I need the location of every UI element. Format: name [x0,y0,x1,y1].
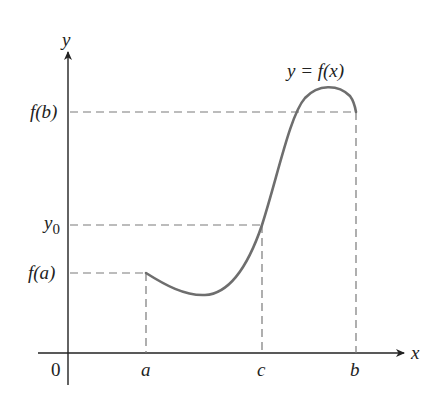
x-axis-label: x [410,342,420,363]
tick-label-fb: f(b) [30,101,57,123]
ivt-diagram: y x 0 a c b f(b) y0 f(a) y = f(x) [0,0,436,403]
curve-label: y = f(x) [285,60,344,82]
function-curve [146,87,356,295]
tick-label-c: c [257,359,266,380]
tick-label-b: b [350,359,360,380]
origin-label: 0 [51,359,61,380]
tick-label-fa: f(a) [28,262,55,284]
y-axis-label: y [60,29,71,50]
tick-label-a: a [141,359,151,380]
tick-label-y0: y0 [42,212,60,237]
